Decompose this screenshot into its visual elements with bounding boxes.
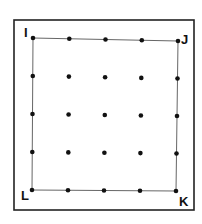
diagram-canvas [0, 0, 202, 224]
grid-dot [67, 37, 72, 42]
label-j: J [181, 33, 188, 46]
grid-dot [66, 188, 71, 193]
grid-dot [66, 112, 71, 117]
grid-dot [102, 188, 107, 193]
dot-grid [30, 36, 181, 194]
grid-dot [139, 113, 144, 118]
grid-dot [67, 74, 72, 79]
grid-dot [175, 114, 180, 119]
grid-dot [31, 36, 36, 41]
grid-dot [140, 38, 145, 43]
grid-dot [103, 75, 108, 80]
grid-dot [30, 150, 35, 155]
grid-dot [102, 151, 107, 156]
grid-dot [66, 150, 71, 155]
grid-dot [30, 188, 35, 193]
grid-dot [103, 113, 108, 118]
label-i: I [24, 26, 28, 39]
grid-dot [175, 76, 180, 81]
label-k: K [179, 195, 188, 208]
grid-dot [174, 151, 179, 156]
grid-dot [138, 151, 143, 156]
label-l: L [21, 189, 29, 202]
grid-dot [30, 112, 35, 117]
grid-dot [176, 39, 181, 44]
grid-dot [138, 189, 143, 194]
grid-dot [103, 37, 108, 42]
grid-dot [31, 74, 36, 79]
grid-dot [174, 189, 179, 194]
grid-dot [139, 76, 144, 81]
